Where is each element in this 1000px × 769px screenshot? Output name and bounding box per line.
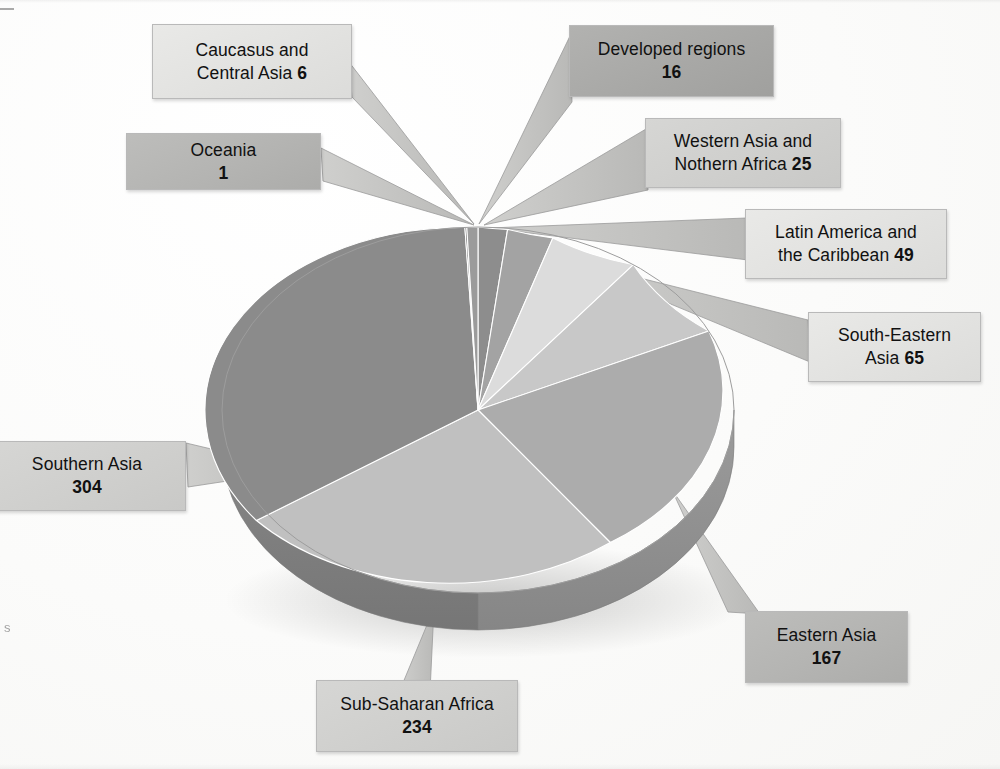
callout-line1: Sub-Saharan Africa bbox=[340, 693, 494, 716]
callout-latin-america-caribbean[interactable]: Latin America and the Caribbean 49 bbox=[745, 209, 947, 279]
callout-line1: South-Eastern bbox=[838, 324, 951, 347]
callout-value: 304 bbox=[72, 476, 102, 499]
callout-line2: Central Asia 6 bbox=[197, 62, 307, 85]
callout-line1: Southern Asia bbox=[32, 453, 142, 476]
callout-line1: Caucasus and bbox=[195, 39, 308, 62]
leader-oceania bbox=[321, 148, 474, 225]
callout-value: 25 bbox=[792, 154, 812, 174]
pie-slices bbox=[205, 227, 723, 583]
callout-line1: Latin America and bbox=[775, 221, 917, 244]
callout-value: 6 bbox=[297, 63, 307, 83]
callout-value: 1 bbox=[219, 162, 229, 185]
callout-line2: the Caribbean 49 bbox=[778, 244, 914, 267]
callout-western-asia-northern-africa[interactable]: Western Asia and Nothern Africa 25 bbox=[645, 118, 841, 188]
callout-value: 16 bbox=[662, 61, 682, 84]
callout-sub-saharan-africa[interactable]: Sub-Saharan Africa 234 bbox=[316, 680, 518, 752]
callout-oceania[interactable]: Oceania 1 bbox=[126, 133, 321, 190]
callout-south-eastern-asia[interactable]: South-Eastern Asia 65 bbox=[808, 312, 981, 382]
callout-value: 234 bbox=[402, 716, 432, 739]
callout-line2: Asia 65 bbox=[865, 347, 924, 370]
callout-value: 167 bbox=[812, 647, 842, 670]
callout-line1: Western Asia and bbox=[674, 130, 812, 153]
callout-value: 49 bbox=[894, 245, 914, 265]
callout-value: 65 bbox=[904, 348, 924, 368]
callout-line2: Nothern Africa 25 bbox=[675, 153, 812, 176]
callout-caucasus-central-asia[interactable]: Caucasus and Central Asia 6 bbox=[152, 24, 352, 99]
callout-southern-asia[interactable]: Southern Asia 304 bbox=[0, 441, 186, 511]
callout-eastern-asia[interactable]: Eastern Asia 167 bbox=[745, 611, 908, 683]
callout-line1: Eastern Asia bbox=[777, 624, 876, 647]
callout-line1: Oceania bbox=[191, 139, 257, 162]
callout-developed-regions[interactable]: Developed regions 16 bbox=[569, 25, 774, 97]
callout-line1: Developed regions bbox=[598, 38, 746, 61]
